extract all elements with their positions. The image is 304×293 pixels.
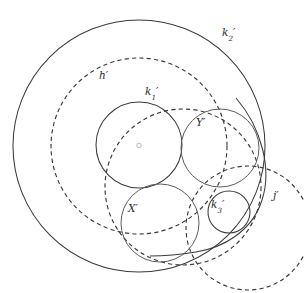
label-k3-prime-mark: ′ [222, 198, 224, 210]
circle-k1-prime [96, 102, 182, 188]
label-k1-prime: k1′ [145, 86, 158, 97]
label-j-prime: j′ [273, 190, 279, 201]
label-Y-prime-mark: ′ [203, 116, 205, 128]
label-X-prime: X′ [128, 203, 138, 214]
circle-X-prime [121, 184, 199, 262]
label-Y-base: Y [196, 116, 203, 128]
label-h-prime: h′ [99, 70, 108, 81]
circle-Y-prime [181, 109, 259, 187]
label-Y-prime: Y′ [196, 117, 205, 128]
label-k1-prime-mark: ′ [156, 85, 158, 97]
label-k2-prime-mark: ′ [233, 26, 235, 38]
circle-h-prime [51, 58, 227, 234]
center-point-marker [137, 143, 142, 148]
label-h-prime-mark: ′ [106, 69, 108, 81]
label-k2-prime: k2′ [222, 27, 235, 38]
label-k3-prime: k3′ [211, 199, 224, 210]
label-k1-sub: 1 [151, 93, 156, 102]
label-k3-sub: 3 [217, 206, 222, 215]
circle-figure-svg [0, 0, 304, 293]
diagram-canvas: k2′ h′ k1′ Y′ X′ k3′ j′ [0, 0, 304, 293]
label-k2-sub: 2 [228, 34, 233, 43]
label-X-prime-mark: ′ [135, 202, 137, 214]
label-j-prime-mark: ′ [276, 189, 278, 201]
label-h-base: h [99, 69, 106, 81]
